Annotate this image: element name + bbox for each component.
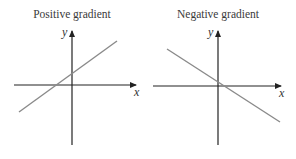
gradient-diagram: Positive gradient x y Negative gradient …	[0, 0, 296, 159]
panel-title: Positive gradient	[33, 8, 111, 21]
x-axis-label: x	[278, 86, 285, 100]
positive-gradient-line	[19, 41, 117, 112]
y-axis-label: y	[207, 25, 214, 39]
negative-gradient-panel: Negative gradient x y	[153, 8, 285, 145]
positive-gradient-panel: Positive gradient x y	[14, 8, 140, 145]
panel-title: Negative gradient	[177, 8, 260, 21]
y-axis-label: y	[61, 25, 68, 39]
x-axis-label: x	[133, 85, 140, 99]
